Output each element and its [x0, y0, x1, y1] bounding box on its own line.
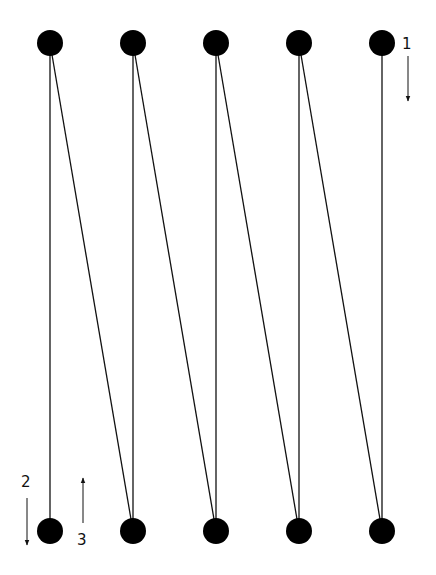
node-t5: [369, 30, 395, 56]
node-t3: [203, 30, 229, 56]
node-t2: [120, 30, 146, 56]
node-t1: [37, 30, 63, 56]
edge-t2-b3: [133, 43, 216, 531]
connector-lines: [50, 43, 382, 531]
node-t4: [286, 30, 312, 56]
node-b4: [286, 518, 312, 544]
node-b5: [369, 518, 395, 544]
edge-t4-b5: [299, 43, 382, 531]
direction-arrows: [27, 56, 408, 545]
edge-t1-b2: [50, 43, 133, 531]
node-b1: [37, 518, 63, 544]
annotation-label-2: 2: [21, 475, 31, 490]
zigzag-diagram: [0, 0, 436, 575]
edge-t3-b4: [216, 43, 299, 531]
annotation-label-3: 3: [77, 533, 87, 548]
node-b3: [203, 518, 229, 544]
annotation-label-1: 1: [402, 37, 412, 52]
node-b2: [120, 518, 146, 544]
